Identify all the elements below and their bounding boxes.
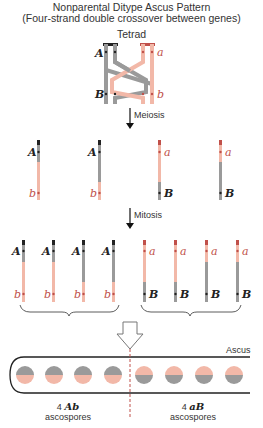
mitosis-6-top: a	[180, 246, 187, 257]
mitosis-3-top: A	[72, 246, 81, 257]
mitosis-2-bottom: b	[44, 289, 51, 300]
mitosis-8-top: a	[242, 246, 249, 257]
meiosis-3-top: a	[164, 147, 171, 158]
spores-Ab	[16, 366, 122, 384]
mitosis-4-top: A	[102, 246, 111, 257]
left-spore-genotype: Ab	[64, 401, 79, 412]
mitosis-2-top: A	[42, 246, 51, 257]
meiosis-4-bottom: B	[225, 188, 234, 199]
gene-label-b: b	[157, 89, 164, 100]
mitosis-1-bottom: b	[14, 289, 21, 300]
right-spore-label: ascospores	[155, 412, 231, 422]
mitosis-5-bottom: B	[149, 289, 158, 300]
mitosis-8-bottom: B	[242, 289, 251, 300]
meiosis-2-top: A	[88, 147, 97, 158]
meiosis-chromosomes	[37, 140, 222, 200]
mitosis-chromosomes	[22, 240, 239, 302]
meiosis-arrow	[126, 108, 134, 129]
left-spores-caption: 4 Ab ascospores	[30, 402, 106, 422]
right-spore-count: 4	[182, 402, 187, 412]
meiosis-3-bottom: B	[164, 188, 173, 199]
diagram-canvas	[0, 0, 263, 428]
mitosis-3-bottom: b	[74, 289, 81, 300]
mitosis-7-top: a	[211, 246, 218, 257]
mitosis-4-bottom: b	[104, 289, 111, 300]
meiosis-label: Meiosis	[134, 110, 165, 120]
right-spore-genotype: aB	[189, 401, 204, 412]
meiosis-1-top: A	[28, 147, 37, 158]
left-spore-label: ascospores	[30, 412, 106, 422]
ascus-label: Ascus	[226, 345, 251, 355]
meiosis-1-bottom: b	[29, 188, 36, 199]
mitosis-1-top: A	[12, 246, 21, 257]
gene-label-A: A	[95, 48, 104, 59]
spores-aB	[135, 366, 243, 384]
hollow-down-arrow	[117, 322, 143, 349]
mitosis-7-bottom: B	[211, 289, 220, 300]
gene-label-a: a	[157, 47, 164, 58]
group-braces	[20, 305, 241, 316]
meiosis-2-bottom: b	[90, 188, 97, 199]
tetrad-chromosomes	[103, 43, 155, 104]
mitosis-arrow	[126, 208, 134, 229]
left-spore-count: 4	[57, 402, 62, 412]
gene-label-B: B	[95, 89, 104, 100]
mitosis-5-top: a	[149, 246, 156, 257]
mitosis-label: Mitosis	[134, 210, 162, 220]
right-spores-caption: 4 aB ascospores	[155, 402, 231, 422]
mitosis-6-bottom: B	[180, 289, 189, 300]
meiosis-4-top: a	[225, 147, 232, 158]
